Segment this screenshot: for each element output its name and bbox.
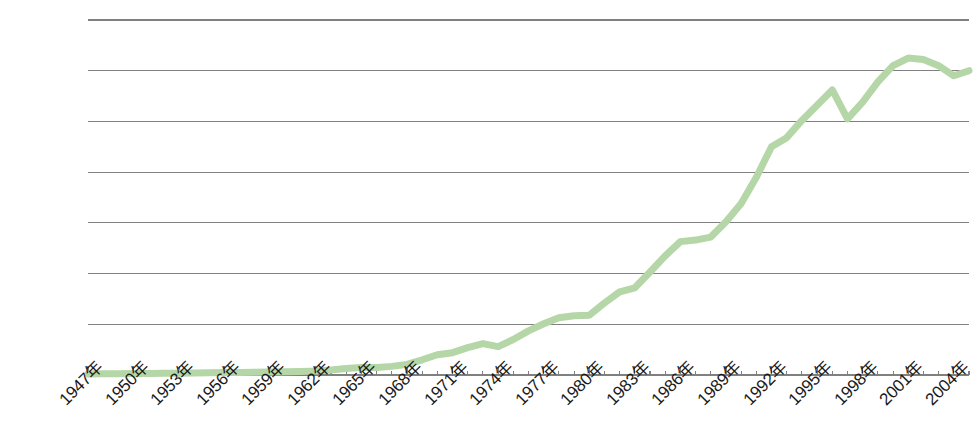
data-line-series [88, 58, 969, 374]
gridlines [88, 20, 969, 375]
line-chart-plot [0, 0, 976, 444]
y-axis-tick-labels: 7000/人6000500040003000200010000 [0, 0, 84, 444]
chart-container: 7000/人6000500040003000200010000 1947年195… [0, 0, 976, 444]
